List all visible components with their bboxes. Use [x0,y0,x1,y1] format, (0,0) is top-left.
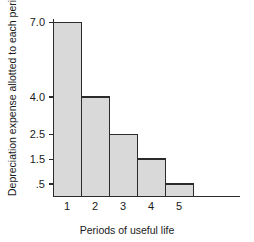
y-tick-label: 7.0 [30,16,45,28]
x-tick-label: 2 [92,200,98,212]
x-tick-label: 5 [176,200,182,212]
y-tick-label: .5 [36,178,45,190]
chart-background [0,0,254,242]
bar-chart: 7.04.02.51.5.5 12345 Periods of useful l… [0,0,254,242]
bar [138,159,166,196]
x-tick-label: 1 [64,200,70,212]
y-tick-label: 1.5 [30,153,45,165]
bar [166,184,194,196]
x-tick-label: 3 [120,200,126,212]
bar [54,23,82,197]
x-tick-label: 4 [148,200,154,212]
y-axis-title: Depreciation expense allotted to each pe… [6,0,18,196]
chart-container: 7.04.02.51.5.5 12345 Periods of useful l… [0,0,254,242]
y-tick-label: 2.5 [30,128,45,140]
x-axis-title: Periods of useful life [80,224,175,236]
bar [110,134,138,196]
y-tick-label: 4.0 [30,91,45,103]
bar [82,97,110,196]
